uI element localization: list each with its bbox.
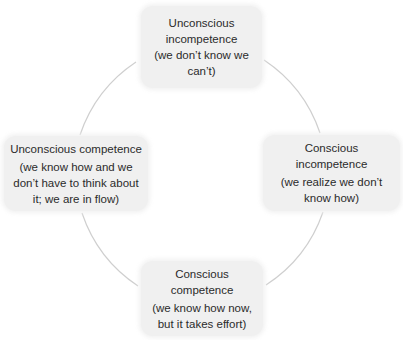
node-description-line: (we realize we don’t [281,174,383,190]
node-description-line: know how) [304,190,359,206]
competence-cycle-diagram: Unconscious incompetence (we don’t know … [0,0,403,340]
node-conscious-incompetence: Conscious incompetence (we realize we do… [263,135,400,211]
node-description-line: don’t have to think about [13,175,138,191]
node-description-line: (we know how and we [19,159,132,175]
arc-bottom-to-left [82,213,138,286]
node-title: Conscious competence [147,266,257,298]
arc-right-to-bottom [266,212,323,285]
node-description: (we don’t know we can’t) [147,47,256,79]
node-unconscious-incompetence: Unconscious incompetence (we don’t know … [141,6,262,88]
node-title-line: incompetence [166,31,238,47]
node-description-line: but it takes effort) [158,316,247,332]
node-description-line: it; we are in flow) [33,191,119,207]
node-description-line: (we know how now, [152,300,252,316]
arc-left-to-top [80,62,136,135]
node-unconscious-competence: Unconscious competence (we know how and … [4,136,148,211]
node-conscious-competence: Conscious competence (we know how now, b… [141,261,263,336]
node-title: Conscious incompetence [269,140,394,172]
node-title-line: Unconscious [169,15,235,31]
node-title: Unconscious competence [10,141,142,157]
arc-top-to-right [264,60,320,133]
